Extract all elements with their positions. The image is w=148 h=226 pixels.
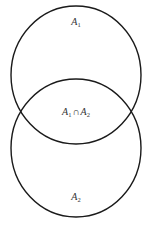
intersection-b-sub: 2 (87, 111, 90, 118)
intersection-label: A1∩A2 (62, 107, 90, 119)
set-a2-label-sub: 2 (77, 196, 80, 203)
venn-diagram: A1 A1∩A2 A2 (0, 0, 148, 226)
set-a1-label-sub: 1 (77, 21, 80, 28)
set-a1-label: A1 (71, 17, 80, 29)
set-a2-label: A2 (71, 192, 80, 204)
intersection-operator: ∩ (72, 106, 79, 117)
intersection-a-sub: 1 (68, 111, 71, 118)
